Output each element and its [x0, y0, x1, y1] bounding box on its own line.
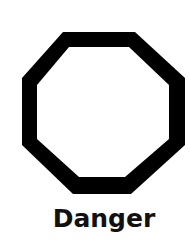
sign-label: Danger	[0, 204, 190, 233]
